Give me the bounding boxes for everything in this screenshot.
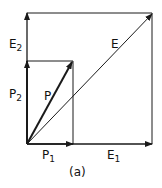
label-p1: P1 [42, 148, 55, 164]
label-e2: E2 [9, 37, 22, 53]
label-e1: E1 [107, 148, 120, 164]
e-resultant-arrow [27, 14, 152, 144]
label-p2: P2 [9, 87, 22, 103]
label-p: P [44, 89, 51, 103]
figure-caption: (a) [69, 165, 86, 179]
p-resultant-arrow [27, 62, 72, 144]
label-e: E [111, 37, 119, 51]
vector-diagram: E2 P2 P E P1 E1 (a) [0, 0, 162, 188]
